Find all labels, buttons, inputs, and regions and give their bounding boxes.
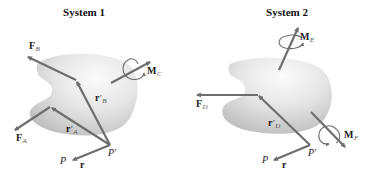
label-r-prime-B: r′B — [95, 93, 106, 103]
label-point-P: P — [262, 155, 268, 165]
label-F-B: FB — [29, 41, 40, 51]
system-2-group — [197, 28, 345, 160]
label-M-F: MF — [344, 130, 358, 140]
system-1-group — [15, 54, 150, 160]
label-M-C: MC — [147, 66, 162, 76]
system-2-title: System 2 — [266, 6, 308, 18]
label-M-E: ME — [300, 32, 314, 42]
label-point-P: P — [60, 156, 66, 166]
label-r: r — [282, 160, 286, 170]
label-F-D: FD — [196, 99, 208, 109]
label-r: r — [80, 160, 84, 170]
position-r-arrow — [274, 145, 310, 160]
label-point-P-prime: P′ — [308, 148, 316, 158]
couple-moment-M-F — [311, 112, 345, 147]
equivalent-force-systems-figure: System 1 System 2 FB FA r′B r′A MC P r P… — [0, 0, 365, 175]
position-r-arrow — [73, 145, 110, 160]
system-1-title: System 1 — [63, 6, 105, 18]
label-r-prime-A: r′A — [66, 124, 77, 134]
label-point-P-prime: P′ — [108, 148, 116, 158]
label-F-A: FA — [16, 133, 27, 143]
label-r-prime-D: r′D — [268, 118, 280, 128]
